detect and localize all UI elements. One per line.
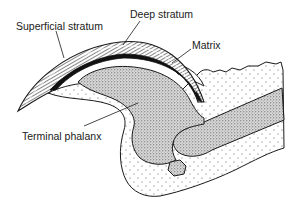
label-superficial-stratum: Superficial stratum — [16, 21, 103, 32]
leader-matrix — [172, 49, 191, 63]
label-terminal-phalanx: Terminal phalanx — [22, 131, 101, 142]
claw-illustration — [0, 0, 302, 215]
claw-diagram: Superficial stratum Deep stratum Matrix … — [0, 0, 302, 215]
leader-superficial-stratum — [56, 31, 64, 58]
label-matrix: Matrix — [192, 40, 221, 51]
label-deep-stratum: Deep stratum — [130, 9, 193, 20]
